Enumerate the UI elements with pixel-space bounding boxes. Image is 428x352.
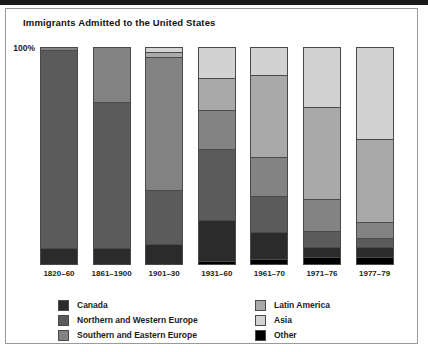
x-axis-label: 1861–1900 (92, 269, 132, 278)
legend-item: Northern and Western Europe (58, 313, 198, 327)
legend-label: Other (274, 330, 297, 340)
bar-stack (40, 47, 78, 265)
bar-segment (199, 111, 235, 150)
bar-stack (145, 47, 183, 265)
bar-stack (356, 47, 394, 265)
legend-item: Southern and Eastern Europe (58, 328, 198, 342)
bar-segment (251, 158, 287, 197)
bar-segment (199, 48, 235, 79)
bar-segment (304, 48, 340, 108)
bar-segment (357, 239, 393, 248)
legend-swatch (255, 300, 266, 311)
bar-segment (304, 248, 340, 257)
bar-segment (251, 76, 287, 157)
bar-segment (251, 260, 287, 264)
bar-segment (251, 48, 287, 76)
bar-column: 1931–60 (198, 47, 236, 265)
legend-item: Asia (255, 313, 330, 327)
bar-segment (199, 221, 235, 262)
bar-segment (251, 233, 287, 259)
legend-item: Canada (58, 298, 198, 312)
plot-area: 100% 1820–601861–19001901–301931–601961–… (40, 47, 405, 265)
legend-swatch (255, 315, 266, 326)
bar-column: 1820–60 (40, 47, 78, 265)
legend-label: Asia (274, 315, 292, 325)
top-rule-divider (0, 0, 428, 5)
bar-segment (357, 48, 393, 140)
legend-column-right: Latin AmericaAsiaOther (255, 298, 330, 343)
bar-segment (304, 232, 340, 248)
legend-label: Latin America (274, 300, 330, 310)
legend-column-left: CanadaNorthern and Western EuropeSouther… (58, 298, 198, 343)
legend-swatch (58, 315, 69, 326)
bar-segment (357, 223, 393, 239)
legend-label: Canada (77, 300, 108, 310)
bar-segment (41, 249, 77, 264)
page-title: Immigrants Admitted to the United States (23, 17, 216, 28)
bar-segment (304, 258, 340, 264)
bar-column: 1961–70 (250, 47, 288, 265)
bar-segment (357, 258, 393, 264)
bar-segment (357, 248, 393, 257)
bar-column: 1861–1900 (93, 47, 131, 265)
bar-segment (357, 140, 393, 223)
bar-segment (94, 249, 130, 264)
bar-segment (199, 150, 235, 221)
bar-column: 1971–76 (303, 47, 341, 265)
bar-stack (198, 47, 236, 265)
bar-stack (303, 47, 341, 265)
legend-label: Northern and Western Europe (77, 315, 198, 325)
legend-label: Southern and Eastern Europe (77, 330, 197, 340)
bar-segment (304, 200, 340, 233)
bar-column: 1977–79 (356, 47, 394, 265)
bar-segment (41, 51, 77, 249)
bar-stack (93, 47, 131, 265)
bar-segment (146, 191, 182, 245)
x-axis-label: 1977–79 (359, 269, 390, 278)
bar-segment (304, 108, 340, 200)
chart-legend: CanadaNorthern and Western EuropeSouther… (58, 298, 388, 344)
bar-segment (94, 103, 130, 250)
legend-swatch (58, 300, 69, 311)
x-axis-label: 1820–60 (43, 269, 74, 278)
bar-segment (199, 79, 235, 112)
bar-segment (199, 262, 235, 264)
bar-column: 1901–30 (145, 47, 183, 265)
x-axis-label: 1971–76 (306, 269, 337, 278)
chart-figure: Immigrants Admitted to the United States… (0, 0, 428, 352)
x-axis-label: 1931–60 (201, 269, 232, 278)
bar-segment (146, 58, 182, 190)
bar-segment (251, 197, 287, 234)
legend-swatch (58, 330, 69, 341)
y-axis-tick-100: 100% (13, 43, 35, 53)
legend-item: Other (255, 328, 330, 342)
legend-swatch (255, 330, 266, 341)
legend-item: Latin America (255, 298, 330, 312)
x-axis-label: 1961–70 (254, 269, 285, 278)
bar-segment (146, 245, 182, 264)
bar-segment (94, 48, 130, 103)
bar-stack (250, 47, 288, 265)
x-axis-label: 1901–30 (149, 269, 180, 278)
